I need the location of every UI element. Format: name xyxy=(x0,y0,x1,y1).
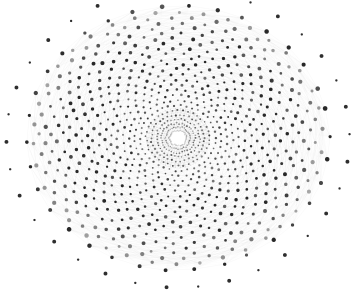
radial-network-graph-canvas xyxy=(0,0,355,303)
network-graph-figure: Dense circular network graph drawn as co… xyxy=(0,0,355,303)
